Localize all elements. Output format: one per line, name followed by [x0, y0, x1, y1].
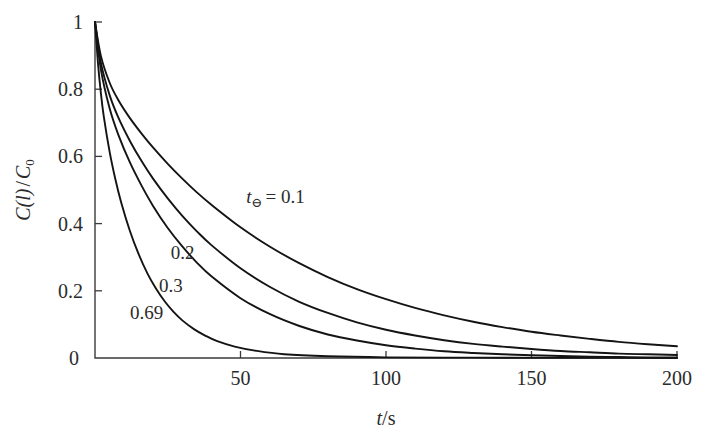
- svg-text:t/s: t/s: [377, 407, 396, 429]
- curve-annotation: 0.69: [130, 302, 163, 323]
- x-tick-label: 0: [69, 347, 79, 369]
- y-axis-title: C(l)/C0: [12, 159, 37, 221]
- x-axis-unit: s: [388, 407, 396, 429]
- curve-annotation: 0.2: [171, 242, 195, 263]
- plot-background: [0, 0, 717, 440]
- y-tick-label: 1: [73, 11, 83, 33]
- y-tick-label: 0.2: [58, 280, 83, 302]
- svg-text:C(l)/C0: C(l)/C0: [12, 159, 37, 221]
- y-axis-base-subscript: 0: [22, 159, 37, 166]
- x-axis-title: t/s: [377, 407, 396, 429]
- y-tick-label: 0.6: [58, 145, 83, 167]
- figure-container: 050100150200 0.20.40.60.81 t⊖= 0.10.20.3…: [0, 0, 717, 440]
- x-tick-label: 150: [517, 367, 547, 389]
- y-axis-divider: /: [12, 181, 34, 187]
- x-tick-label: 200: [662, 367, 692, 389]
- y-tick-label: 0.8: [58, 78, 83, 100]
- x-tick-label: 100: [371, 367, 401, 389]
- curve-annotation: 0.3: [159, 275, 183, 296]
- y-axis-symbol: C: [12, 207, 34, 221]
- chart-canvas: 050100150200 0.20.40.60.81 t⊖= 0.10.20.3…: [0, 0, 717, 440]
- x-tick-label: 50: [231, 367, 251, 389]
- y-axis-argument: (l): [12, 188, 35, 207]
- y-tick-label: 0.4: [58, 213, 83, 235]
- y-axis-base-symbol: C: [12, 165, 34, 179]
